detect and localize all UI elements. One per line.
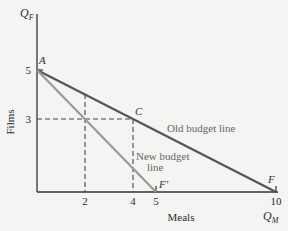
y-tick-label-3: 3 xyxy=(26,113,32,125)
point-label-f-prime: F′ xyxy=(158,178,169,190)
y-axis-title: Films xyxy=(4,109,16,134)
new-budget-line-label-2: line xyxy=(147,161,164,173)
x-axis-title: Meals xyxy=(168,211,195,223)
point-label-c: C xyxy=(135,105,143,117)
x-axis-symbol: QM xyxy=(263,209,280,225)
y-tick-label-5: 5 xyxy=(26,64,32,76)
new-budget-line xyxy=(37,70,156,192)
x-tick-label-2: 2 xyxy=(82,195,88,207)
budget-line-chart: QF QM 5 3 2 4 5 10 A C F F′ Old budget l… xyxy=(0,0,288,231)
point-label-f: F xyxy=(267,173,275,185)
old-budget-line xyxy=(37,70,276,192)
point-label-a: A xyxy=(38,54,46,66)
y-axis-symbol: QF xyxy=(20,6,34,22)
old-budget-line-label: Old budget line xyxy=(167,122,236,134)
x-tick-label-10: 10 xyxy=(271,195,283,207)
x-tick-label-5: 5 xyxy=(153,195,159,207)
x-tick-label-4: 4 xyxy=(130,195,136,207)
